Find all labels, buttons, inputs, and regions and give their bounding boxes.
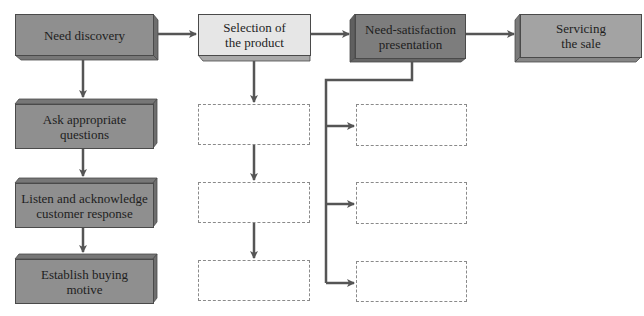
node-label-line2: presentation <box>365 37 456 52</box>
node-label-line2: the product <box>223 35 285 50</box>
node-listen-and-acknowledge: Listen and acknowledge customer response <box>15 183 154 228</box>
node-servicing-the-sale: Servicing the sale <box>520 14 642 58</box>
node-label-line1: Establish buying <box>41 267 128 282</box>
blank-mid-2 <box>198 182 310 223</box>
node-label-line1: Need-satisfaction <box>365 22 456 37</box>
blank-mid-1 <box>198 104 310 145</box>
blank-right-1 <box>356 104 467 146</box>
node-need-satisfaction-presentation: Need-satisfaction presentation <box>355 14 466 59</box>
node-label-line2: the sale <box>556 36 606 51</box>
blank-mid-3 <box>198 260 310 301</box>
blank-right-2 <box>356 182 467 224</box>
node-label-line1: Listen and acknowledge <box>21 191 147 206</box>
node-label: Need discovery <box>44 28 125 43</box>
node-label-line2: customer response <box>21 206 147 221</box>
blank-right-3 <box>356 261 467 302</box>
node-selection-of-product: Selection of the product <box>198 14 311 56</box>
node-establish-buying-motive: Establish buying motive <box>15 259 154 304</box>
node-label-line2: questions <box>43 127 126 142</box>
node-label-line1: Servicing <box>556 21 606 36</box>
node-need-discovery: Need discovery <box>15 14 154 56</box>
node-label-line1: Selection of <box>223 20 285 35</box>
node-ask-appropriate-questions: Ask appropriate questions <box>15 104 154 149</box>
node-label-line1: Ask appropriate <box>43 112 126 127</box>
node-label-line2: motive <box>41 282 128 297</box>
